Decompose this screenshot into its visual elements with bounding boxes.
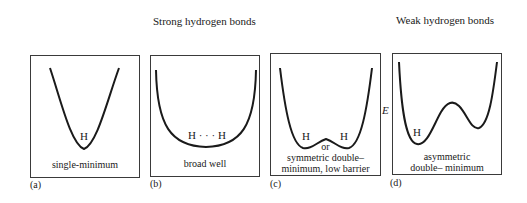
panel-symmetric-double-minimum: H H or symmetric double– minimum, low ba… (270, 53, 381, 176)
hydrogen-pair-label: H · · · H (188, 129, 226, 141)
panel-caption: broad well (151, 158, 259, 169)
or-label: or (271, 141, 380, 152)
panel-letter-d: (d) (390, 177, 402, 188)
weak-bonds-header: Weak hydrogen bonds (396, 14, 494, 26)
hydrogen-label: H (413, 126, 421, 138)
panel-letter-c: (c) (270, 178, 281, 189)
strong-bonds-header: Strong hydrogen bonds (153, 15, 256, 27)
panel-letter-b: (b) (150, 178, 162, 189)
panel-broad-well: H · · · H broad well (150, 55, 260, 177)
panel-caption: asymmetric double– minimum (393, 151, 501, 173)
panel-single-minimum: H single-minimum (30, 55, 140, 178)
energy-axis-label: E (382, 104, 389, 116)
hydrogen-label: H (80, 130, 88, 142)
panel-letter-a: (a) (30, 179, 41, 190)
panel-caption: single-minimum (31, 159, 139, 170)
panel-asymmetric-double-minimum: H asymmetric double– minimum (392, 53, 502, 175)
panel-caption: symmetric double– minimum, low barrier (271, 152, 380, 174)
